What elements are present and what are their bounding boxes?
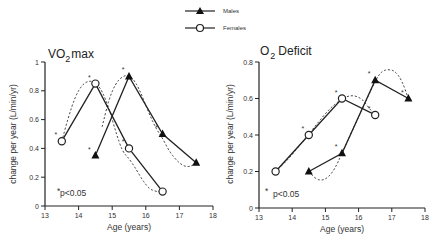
significance-star-females: *	[368, 105, 371, 112]
significance-note: p<0.05	[273, 189, 300, 199]
y-tick-label: 0.2	[29, 174, 39, 181]
y-tick-label: 0.8	[29, 87, 39, 94]
significance-note: p<0.05	[60, 188, 87, 198]
y-axis-title: change per year (L/min/yr)	[8, 84, 18, 184]
significance-star: *	[265, 186, 269, 196]
title-main: O	[260, 44, 269, 58]
title-rest: Deficit	[278, 44, 312, 58]
chart-o2-deficit: O2Deficit 00.20.40.60.8131415161718 ****…	[225, 44, 429, 234]
data-point-females	[159, 188, 166, 195]
significance-star-males: *	[122, 66, 125, 73]
fit-curve-males	[102, 76, 196, 167]
data-point-females	[58, 138, 65, 145]
significance-star-males: *	[368, 70, 371, 77]
title-rest: max	[71, 47, 94, 61]
data-point-males	[338, 149, 346, 157]
data-point-females	[125, 145, 132, 152]
chart-vo2max: VO2max 00.20.40.60.81131415161718 ******…	[8, 47, 217, 232]
data-point-males	[159, 130, 167, 138]
series-line-males	[309, 80, 409, 171]
data-point-females	[305, 131, 312, 138]
title-subscript: 2	[270, 51, 275, 61]
legend: Males Females	[185, 7, 246, 32]
y-tick-label: 0.2	[243, 168, 253, 175]
series-line-females	[62, 84, 163, 192]
x-tick-label: 13	[255, 214, 263, 221]
y-tick-label: 1	[35, 59, 39, 66]
y-tick-label: 0.6	[29, 116, 39, 123]
y-tick-label: 0.6	[243, 95, 253, 102]
x-tick-label: 14	[75, 212, 83, 219]
circle-marker-icon	[197, 25, 204, 32]
title-main: VO	[48, 47, 65, 61]
significance-star-females: *	[88, 74, 91, 81]
x-tick-label: 15	[322, 214, 330, 221]
x-tick-label: 18	[209, 212, 217, 219]
y-tick-label: 0.4	[243, 132, 253, 139]
data-point-males	[371, 76, 379, 84]
significance-star-females: *	[301, 125, 304, 132]
x-tick-label: 16	[142, 212, 150, 219]
data-point-females	[338, 95, 345, 102]
significance-star-males: *	[155, 124, 158, 131]
title-subscript: 2	[65, 54, 70, 64]
significance-star-females: *	[54, 131, 57, 138]
y-tick-label: 0.4	[29, 145, 39, 152]
legend-label-males: Males	[223, 8, 239, 14]
y-tick-label: 0	[35, 203, 39, 210]
x-axis-title: Age (years)	[320, 224, 364, 234]
y-axis-title: change per year (L/min/yr)	[225, 84, 235, 184]
significance-star-males: *	[88, 146, 91, 153]
x-tick-label: 14	[288, 214, 296, 221]
data-point-males	[125, 72, 133, 80]
fit-curve-females	[62, 81, 163, 191]
significance-star-females: *	[335, 89, 338, 96]
x-axis-title: Age (years)	[107, 222, 151, 232]
data-point-females	[372, 111, 379, 118]
legend-entry-males: Males	[185, 7, 239, 14]
significance-star-females: *	[122, 138, 125, 145]
legend-label-females: Females	[223, 25, 246, 31]
series-line-males	[95, 76, 196, 162]
x-tick-label: 18	[421, 214, 429, 221]
data-point-males	[305, 167, 313, 175]
x-tick-label: 17	[388, 214, 396, 221]
data-point-females	[92, 80, 99, 87]
legend-entry-females: Females	[185, 25, 246, 32]
data-point-males	[192, 158, 200, 166]
significance-star-males: *	[335, 143, 338, 150]
figure: Males Females VO2max 00.20.40.60.8113141…	[0, 0, 436, 245]
series-line-females	[276, 99, 376, 172]
chart-title-o2-deficit: O2Deficit	[260, 44, 312, 61]
data-point-males	[91, 151, 99, 159]
y-tick-label: 0	[249, 205, 253, 212]
chart-title-vo2max: VO2max	[48, 47, 94, 64]
x-tick-label: 15	[108, 212, 116, 219]
data-point-males	[404, 94, 412, 102]
x-tick-label: 16	[355, 214, 363, 221]
data-point-females	[272, 168, 279, 175]
significance-star-males: *	[401, 89, 404, 96]
x-tick-label: 13	[41, 212, 49, 219]
x-tick-label: 17	[176, 212, 184, 219]
y-tick-label: 0.8	[243, 59, 253, 66]
